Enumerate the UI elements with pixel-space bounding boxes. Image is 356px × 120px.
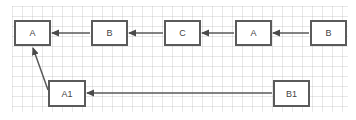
- node-a-2[interactable]: A: [235, 20, 272, 46]
- node-b-2[interactable]: B: [310, 20, 347, 46]
- node-c[interactable]: C: [164, 20, 201, 46]
- node-label: B: [325, 28, 331, 38]
- node-a1[interactable]: A1: [48, 80, 86, 107]
- node-label: B1: [286, 89, 297, 99]
- node-label: A: [29, 28, 35, 38]
- node-a[interactable]: A: [14, 20, 51, 46]
- node-b1[interactable]: B1: [273, 80, 310, 107]
- node-label: B: [106, 28, 112, 38]
- node-label: A1: [61, 89, 72, 99]
- node-label: A: [250, 28, 256, 38]
- edge-a1-to-a[interactable]: [33, 48, 48, 90]
- node-b[interactable]: B: [91, 20, 128, 46]
- node-label: C: [179, 28, 186, 38]
